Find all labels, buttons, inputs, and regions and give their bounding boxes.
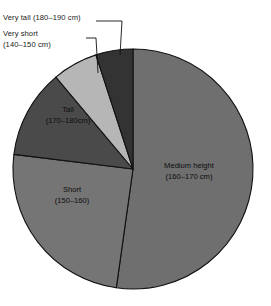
callout-text-very-tall: Very tall (180–190 cm)	[3, 13, 81, 22]
pie-chart: Medium height(160–170 cm)Short(150–160)T…	[0, 0, 271, 306]
pie-slice-short[interactable]	[13, 154, 133, 287]
slice-callout-label-very-tall: Very tall (180–190 cm)	[3, 13, 81, 24]
slice-callout-label-very-short: Very short (140–150 cm)	[3, 29, 51, 50]
slice-label-medium-height: Medium height(160–170 cm)	[164, 161, 215, 181]
callout-text-very-short-line1: Very short	[3, 29, 51, 40]
callout-text-very-short-line2: (140–150 cm)	[3, 40, 51, 51]
pie-slices-group	[13, 49, 253, 289]
